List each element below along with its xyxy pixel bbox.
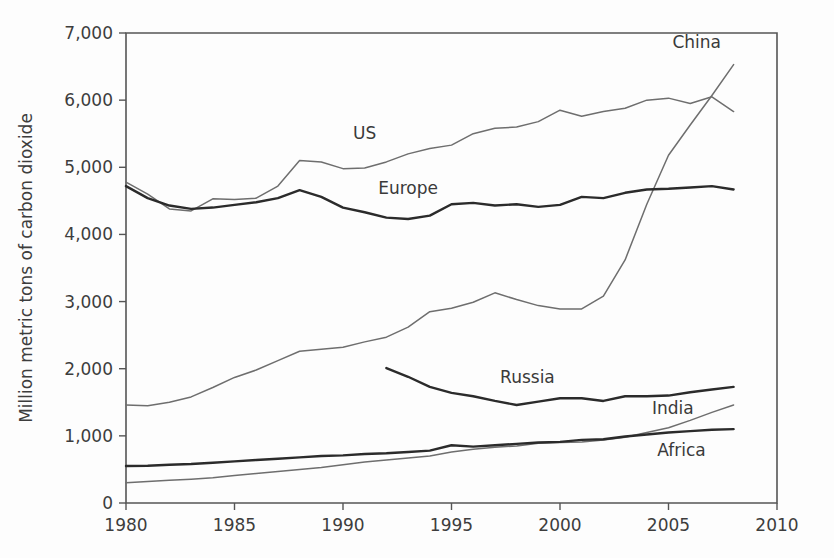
x-axis-tick-label: 1980 (104, 515, 147, 535)
x-axis-tick-label: 2000 (538, 515, 581, 535)
x-axis-tick-label: 1985 (213, 515, 256, 535)
x-axis-tick-label: 2010 (755, 515, 798, 535)
series-line-china (126, 65, 734, 406)
series-label-russia: Russia (500, 367, 555, 387)
x-axis-tick-label: 1995 (430, 515, 473, 535)
y-axis-tick-label: 2,000 (64, 359, 113, 379)
x-axis-tick-label: 1990 (321, 515, 364, 535)
y-axis-tick-label: 0 (102, 493, 113, 513)
chart-figure: 01,0002,0003,0004,0005,0006,0007,0001980… (0, 0, 834, 558)
series-line-india (126, 405, 734, 483)
series-label-china: China (672, 32, 721, 52)
series-label-us: US (353, 123, 376, 143)
series-label-africa: Africa (657, 440, 706, 460)
chart-series (126, 65, 734, 483)
series-label-europe: Europe (378, 178, 438, 198)
series-line-africa (126, 429, 734, 466)
x-axis-tick-label: 2005 (647, 515, 690, 535)
series-label-india: India (652, 398, 694, 418)
y-axis-tick-label: 5,000 (64, 157, 113, 177)
y-axis-tick-label: 7,000 (64, 23, 113, 43)
line-chart: 01,0002,0003,0004,0005,0006,0007,0001980… (0, 0, 834, 558)
y-axis-title: Million metric tons of carbon dioxide (16, 113, 36, 423)
y-axis-tick-label: 1,000 (64, 426, 113, 446)
y-axis-tick-label: 6,000 (64, 90, 113, 110)
y-axis-tick-label: 3,000 (64, 292, 113, 312)
y-axis-tick-label: 4,000 (64, 224, 113, 244)
